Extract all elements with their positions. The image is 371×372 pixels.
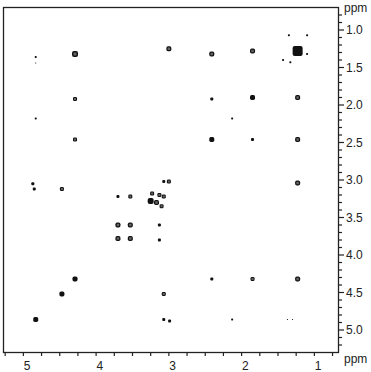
y-tick-label: 2.5: [346, 136, 363, 150]
cross-peak: [158, 239, 161, 242]
peak-contour-inner: [168, 48, 171, 51]
peak-contour-inner: [61, 188, 63, 190]
peak-contour-inner: [296, 96, 299, 99]
cross-peak: [210, 278, 213, 281]
cross-peak: [292, 319, 293, 320]
cross-peak: [250, 95, 255, 100]
cross-peak: [231, 319, 233, 321]
peak-contour-inner: [161, 205, 163, 207]
y-tick-label: 5.0: [346, 323, 363, 337]
cross-peak: [210, 98, 213, 101]
peak-contour-inner: [74, 139, 76, 141]
cross-peak: [73, 277, 78, 282]
cross-peak: [231, 118, 233, 120]
cross-peak: [287, 319, 288, 320]
peak-contour-inner: [296, 278, 299, 281]
peak-contour-inner: [251, 50, 254, 53]
cross-peak: [35, 63, 36, 64]
cross-peak: [162, 318, 165, 321]
peak-contour-inner: [163, 293, 165, 295]
cross-peak: [33, 317, 38, 322]
cross-peak: [162, 180, 165, 183]
x-axis: 54321: [5, 352, 332, 372]
cosy-spectrum-chart: 54321 1.01.52.02.53.03.54.04.55.0 ppm pp…: [0, 0, 371, 372]
cross-peak: [306, 53, 308, 55]
cross-peak: [158, 224, 161, 227]
x-tick-label: 3: [169, 359, 176, 372]
y-tick-label: 2.0: [346, 98, 363, 112]
peak-contour-inner: [163, 196, 165, 198]
peak-contour-inner: [296, 138, 299, 141]
cross-peak: [33, 188, 36, 191]
cross-peak: [116, 195, 119, 198]
cross-peak: [35, 56, 37, 58]
cross-peak: [288, 34, 290, 36]
x-tick-label: 2: [242, 359, 249, 372]
peak-contour-inner: [252, 278, 254, 280]
x-tick-label: 1: [315, 359, 322, 372]
cross-peak: [35, 118, 37, 120]
x-tick-label: 4: [96, 359, 103, 372]
peak-contour-inner: [129, 237, 132, 240]
peak-contour-inner: [117, 237, 120, 240]
y-axis-unit-label: ppm: [344, 1, 367, 15]
peak-contour-inner: [151, 193, 153, 195]
peak-contour-inner: [117, 224, 120, 227]
cross-peak: [209, 137, 214, 142]
cross-peak: [251, 138, 254, 141]
peak-contour-inner: [211, 53, 214, 56]
peak-contour-inner: [155, 201, 158, 204]
peak-contour-inner: [158, 194, 160, 196]
x-axis-unit-label: ppm: [344, 352, 367, 366]
peak-contour-inner: [74, 53, 77, 56]
peak-contour-inner: [168, 181, 170, 183]
cross-peak: [293, 46, 303, 56]
y-tick-label: 3.5: [346, 211, 363, 225]
peak-contour-inner: [129, 196, 131, 198]
cross-peak: [59, 292, 64, 297]
y-tick-label: 1.5: [346, 61, 363, 75]
cross-peak: [168, 320, 171, 323]
y-tick-label: 4.0: [346, 248, 363, 262]
y-tick-label: 3.0: [346, 173, 363, 187]
peak-contour-inner: [129, 224, 132, 227]
peak-contour-inner: [74, 98, 76, 100]
y-tick-label: 1.0: [346, 23, 363, 37]
cross-peak: [282, 59, 284, 61]
y-tick-label: 4.5: [346, 286, 363, 300]
cross-peak: [31, 182, 34, 185]
x-tick-label: 5: [24, 359, 31, 372]
peak-contour-inner: [296, 182, 299, 185]
cross-peak: [148, 198, 154, 204]
plot-frame: [4, 8, 339, 353]
cross-peak: [306, 34, 308, 36]
y-axis: 1.01.52.02.53.03.54.04.55.0: [338, 15, 363, 345]
cross-peak: [289, 61, 291, 63]
